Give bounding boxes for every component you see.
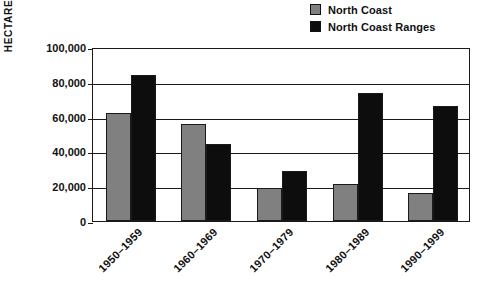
x-axis-tick-labels: 1950–19591960–19691970–19791980–19891990…: [0, 0, 494, 291]
x-axis-tick-label: 1950–1959: [96, 226, 145, 275]
x-axis-tick-label: 1970–1979: [247, 226, 296, 275]
x-axis-tick-label: 1990–1999: [398, 226, 447, 275]
x-axis-tick-label: 1960–1969: [171, 226, 220, 275]
x-axis-tick-label: 1980–1989: [323, 226, 372, 275]
